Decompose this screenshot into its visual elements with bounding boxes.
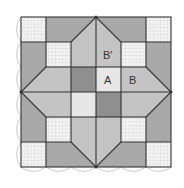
label-b-prime: B′ xyxy=(103,49,112,61)
label-b: B xyxy=(129,74,136,86)
label-a: A xyxy=(104,74,112,86)
quilt-diagram: B′ A B xyxy=(0,0,184,188)
